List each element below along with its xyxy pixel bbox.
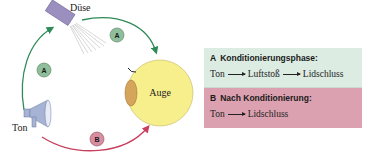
- badge-a-nozzle-eye: A: [110, 28, 124, 42]
- tone-label: Ton: [12, 122, 27, 133]
- legend: AKonditionierungsphase: Ton Luftstoß Lid…: [204, 48, 362, 128]
- eye-label: Auge: [149, 87, 171, 98]
- phase-b-title: BNach Konditionierung:: [210, 93, 356, 104]
- phase-a-sequence: Ton Luftstoß Lidschluss: [210, 69, 356, 79]
- svg-text:A: A: [41, 67, 46, 74]
- seq-step: Ton: [210, 69, 225, 79]
- seq-step: Lidschluss: [303, 69, 344, 79]
- arrow-right-icon: [283, 74, 300, 75]
- phase-a-title-text: Konditionierungsphase:: [220, 53, 318, 63]
- badge-a-tone-nozzle: A: [37, 63, 51, 77]
- phase-b-title-text: Nach Konditionierung:: [220, 93, 312, 103]
- phase-a-letter: A: [210, 53, 216, 63]
- phase-b-letter: B: [210, 93, 216, 103]
- legend-phase-b: BNach Konditionierung: Ton Lidschluss: [204, 88, 362, 128]
- arrow-right-icon: [228, 74, 245, 75]
- svg-text:B: B: [94, 136, 99, 143]
- megaphone-icon: [24, 100, 51, 127]
- seq-step: Lidschluss: [248, 109, 289, 119]
- conditioning-diagram: Düse A A B Auge Ton: [0, 0, 200, 154]
- badge-b-tone-eye: B: [90, 132, 104, 146]
- seq-step: Luftstoß: [248, 69, 280, 79]
- svg-text:A: A: [114, 32, 119, 39]
- nozzle-label: Düse: [70, 2, 91, 13]
- phase-b-sequence: Ton Lidschluss: [210, 109, 356, 119]
- legend-phase-a: AKonditionierungsphase: Ton Luftstoß Lid…: [204, 48, 362, 88]
- seq-step: Ton: [210, 109, 225, 119]
- phase-a-title: AKonditionierungsphase:: [210, 53, 356, 64]
- arrow-right-icon: [228, 114, 245, 115]
